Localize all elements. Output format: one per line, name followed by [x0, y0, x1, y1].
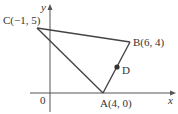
y-axis-arrow-icon	[48, 4, 53, 10]
segment-ac	[37, 28, 103, 93]
label-x-axis: x	[167, 94, 173, 106]
label-origin: 0	[40, 94, 46, 106]
segment-cb	[37, 28, 130, 42]
coordinate-diagram: C(−1, 5) B(6, 4) A(4, 0) D 0 y x	[0, 0, 178, 114]
label-a: A(4, 0)	[100, 97, 132, 110]
label-d: D	[122, 64, 130, 76]
point-d	[114, 64, 119, 69]
label-y-axis: y	[40, 1, 46, 13]
label-c: C(−1, 5)	[3, 14, 41, 27]
label-b: B(6, 4)	[133, 36, 165, 49]
